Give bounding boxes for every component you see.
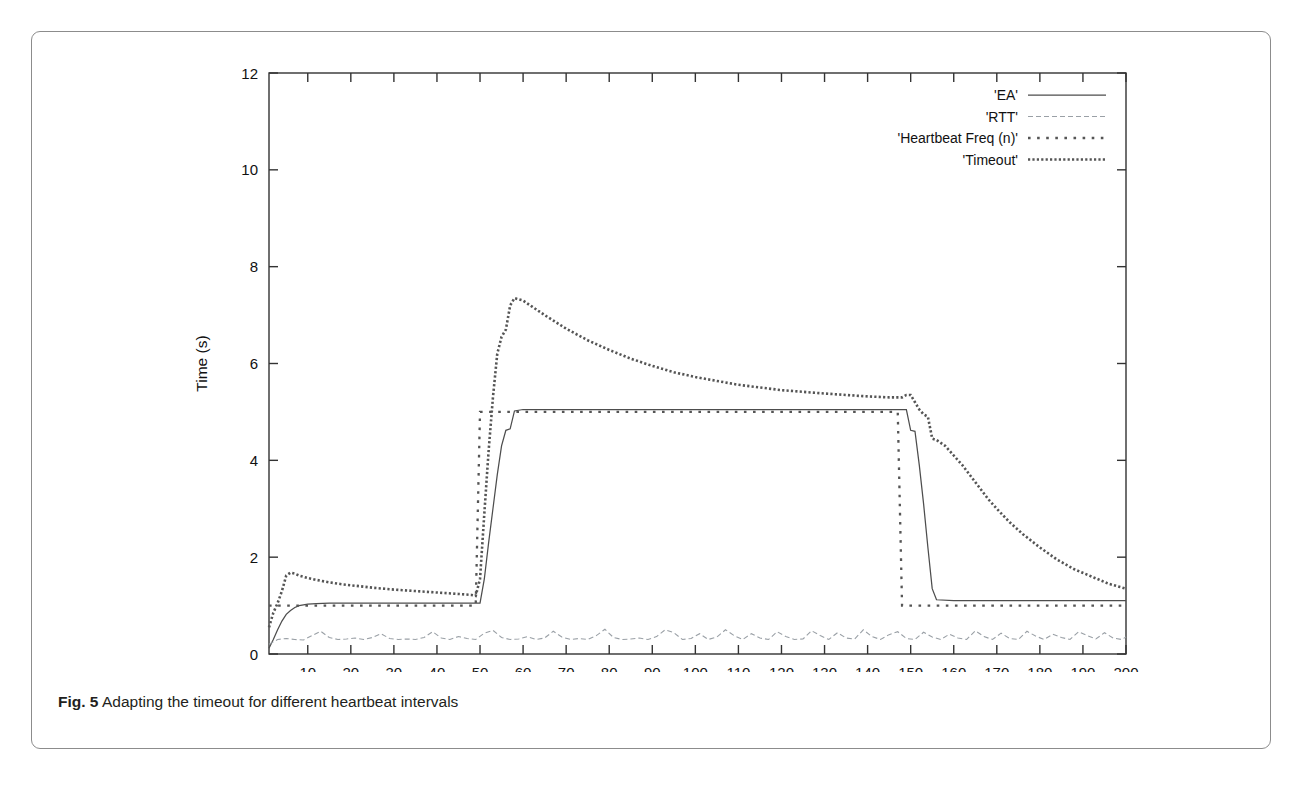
y-tick-label: 4 xyxy=(250,452,258,469)
x-tick-label: 180 xyxy=(1027,664,1052,672)
legend-label-1: 'RTT' xyxy=(986,109,1018,125)
series-line-1 xyxy=(269,629,1126,644)
x-tick-label: 10 xyxy=(299,664,316,672)
x-tick-label: 140 xyxy=(855,664,880,672)
x-tick-label: 110 xyxy=(726,664,750,672)
x-tick-label: 200 xyxy=(1113,664,1138,672)
y-tick-label: 10 xyxy=(241,161,258,178)
x-tick-label: 80 xyxy=(601,664,618,672)
y-tick-label: 6 xyxy=(250,355,258,372)
figure-caption: Fig. 5 Adapting the timeout for differen… xyxy=(58,692,1238,712)
y-axis-title: Time (s) xyxy=(193,335,210,391)
x-tick-label: 120 xyxy=(769,664,794,672)
series-line-3 xyxy=(269,298,1126,627)
x-tick-label: 20 xyxy=(342,664,359,672)
chart-svg: 0246810121020304050607080901001101201301… xyxy=(32,32,1272,672)
x-tick-label: 150 xyxy=(898,664,923,672)
x-tick-label: 100 xyxy=(683,664,708,672)
y-tick-label: 2 xyxy=(250,549,258,566)
x-tick-label: 60 xyxy=(515,664,532,672)
legend-label-2: 'Heartbeat Freq (n)' xyxy=(897,130,1018,146)
figure-caption-label: Fig. 5 xyxy=(58,693,98,710)
x-tick-label: 170 xyxy=(984,664,1009,672)
figure-card: 0246810121020304050607080901001101201301… xyxy=(31,31,1271,749)
legend-label-3: 'Timeout' xyxy=(963,152,1018,168)
x-tick-label: 190 xyxy=(1070,664,1095,672)
x-tick-label: 90 xyxy=(644,664,661,672)
legend-label-0: 'EA' xyxy=(994,87,1018,103)
x-tick-label: 50 xyxy=(472,664,489,672)
x-tick-label: 160 xyxy=(941,664,966,672)
y-tick-label: 8 xyxy=(250,258,258,275)
chart-plot-area: 0246810121020304050607080901001101201301… xyxy=(32,32,1272,672)
series-line-0 xyxy=(269,410,1126,649)
figure-caption-text: Adapting the timeout for different heart… xyxy=(102,693,458,710)
series-line-2 xyxy=(269,412,1126,606)
x-tick-label: 130 xyxy=(812,664,837,672)
x-tick-label: 30 xyxy=(386,664,403,672)
x-tick-label: 40 xyxy=(429,664,446,672)
y-tick-label: 12 xyxy=(241,65,258,82)
y-tick-label: 0 xyxy=(250,646,258,663)
x-tick-label: 70 xyxy=(558,664,575,672)
